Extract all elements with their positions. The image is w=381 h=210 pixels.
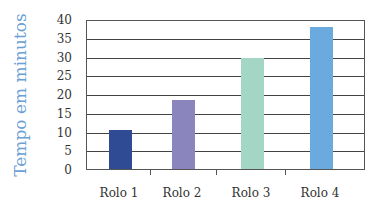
bar-rolo-2	[172, 100, 195, 169]
plot-area	[86, 20, 365, 170]
y-tick-label: 20	[42, 88, 72, 102]
y-tick-label: 25	[42, 69, 72, 83]
y-tick-label: 5	[42, 144, 72, 158]
x-tick-label: Rolo 4	[290, 186, 350, 200]
bar-rolo-1	[109, 130, 132, 169]
x-tick-mark	[285, 170, 286, 175]
y-tick-label: 30	[42, 51, 72, 65]
x-tick-label: Rolo 2	[152, 186, 212, 200]
x-tick-mark	[150, 170, 151, 175]
y-axis-label: Tempo em minutos	[10, 13, 30, 177]
x-tick-label: Rolo 3	[221, 186, 281, 200]
y-tick-label: 0	[42, 163, 72, 177]
y-tick-label: 15	[42, 107, 72, 121]
y-tick-label: 10	[42, 126, 72, 140]
bar-rolo-4	[310, 27, 333, 170]
x-tick-mark	[216, 170, 217, 175]
y-tick-label: 40	[42, 13, 72, 27]
bar-rolo-3	[241, 58, 264, 169]
x-tick-label: Rolo 1	[89, 186, 149, 200]
y-tick-label: 35	[42, 32, 72, 46]
